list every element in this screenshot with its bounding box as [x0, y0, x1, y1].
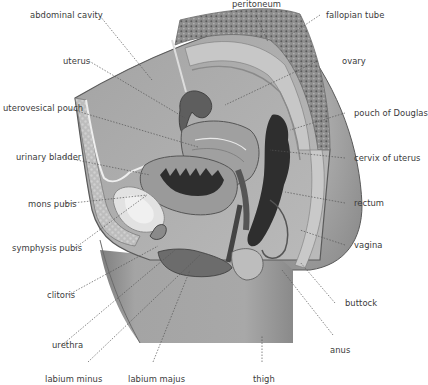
label-rectum: rectum [354, 198, 384, 208]
label-abdominal-cavity: abdominal cavity [30, 10, 103, 20]
label-clitoris: clitoris [47, 290, 75, 300]
label-cervix-of-uterus: cervix of uterus [354, 153, 421, 163]
label-anus: anus [330, 345, 350, 355]
label-mons-pubis: mons pubis [28, 199, 77, 209]
label-ovary: ovary [342, 56, 366, 66]
label-uterus: uterus [63, 56, 90, 66]
label-peritoneum: peritoneum [232, 0, 281, 9]
label-urethra: urethra [52, 340, 83, 350]
label-symphysis-pubis: symphysis pubis [12, 243, 82, 253]
label-labium-majus: labium majus [128, 374, 185, 384]
label-urinary-bladder: urinary bladder [16, 152, 81, 162]
label-labium-minus: labium minus [45, 374, 102, 384]
label-vagina: vagina [354, 240, 382, 250]
label-uterovesical-pouch: uterovesical pouch [3, 103, 83, 113]
label-thigh: thigh [253, 374, 275, 384]
label-fallopian-tube: fallopian tube [326, 10, 384, 20]
label-buttock: buttock [345, 298, 377, 308]
label-pouch-of-douglas: pouch of Douglas [354, 108, 428, 118]
